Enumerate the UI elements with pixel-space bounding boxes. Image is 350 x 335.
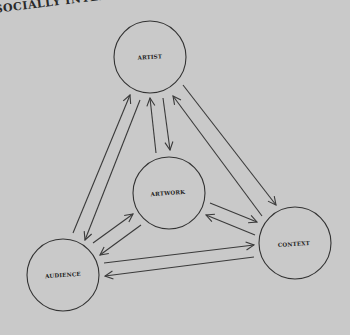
audience-label: AUDIENCE: [44, 271, 81, 280]
edge-artwork-to-artist: [150, 98, 156, 153]
edge-artist-to-artwork: [163, 98, 170, 150]
node-audience: AUDIENCE: [27, 239, 99, 311]
edge-audience-to-artwork: [93, 214, 133, 243]
edge-artist-to-context: [183, 85, 276, 205]
edge-artwork-to-audience: [100, 225, 141, 255]
context-label: CONTEXT: [278, 240, 311, 248]
relationship-diagram: ARTIST ARTWORK AUDIENCE CONTEXT: [0, 0, 350, 335]
edge-audience-to-artist: [73, 95, 130, 233]
artist-label: ARTIST: [136, 53, 163, 61]
edge-context-to-artist: [173, 96, 262, 216]
node-artwork: ARTWORK: [133, 157, 205, 229]
node-artist: ARTIST: [114, 21, 186, 93]
node-context: CONTEXT: [259, 207, 331, 279]
edge-artist-to-audience: [85, 100, 140, 240]
artwork-label: ARTWORK: [149, 189, 185, 197]
